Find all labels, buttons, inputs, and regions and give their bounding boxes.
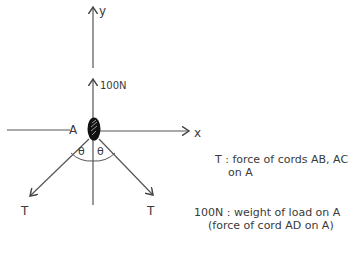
legend-weight-line2: (force of cord AD on A) bbox=[194, 219, 340, 232]
tension-left-label: T bbox=[20, 204, 29, 218]
x-axis-label: x bbox=[194, 126, 201, 140]
point-a-label: A bbox=[69, 123, 78, 137]
legend-tension: T : force of cords AB, AC on A bbox=[215, 153, 348, 179]
legend-tension-line1: T : force of cords AB, AC bbox=[215, 153, 348, 166]
angle-label-right: θ bbox=[97, 145, 104, 158]
y-axis-label: y bbox=[99, 4, 106, 18]
tension-right-arrow bbox=[99, 139, 153, 195]
legend-weight-line1: 100N : weight of load on A bbox=[194, 206, 340, 219]
legend-tension-line2: on A bbox=[215, 166, 348, 179]
tension-right-label: T bbox=[146, 204, 155, 218]
legend-weight: 100N : weight of load on A (force of cor… bbox=[194, 206, 340, 232]
weight-force-label: 100N bbox=[100, 80, 127, 91]
angle-label-left: θ bbox=[78, 145, 85, 158]
